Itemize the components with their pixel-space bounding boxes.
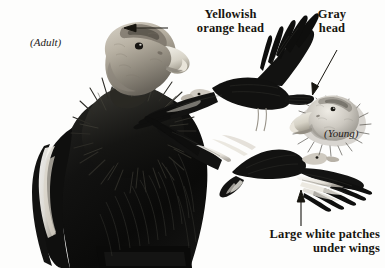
callout-line-2: orange head	[163, 22, 298, 36]
callout-large-white-patches-under-wings: Large white patches under wings	[243, 228, 380, 255]
callout-line-1: Large white patches	[243, 228, 380, 242]
condor-identification-plate: Yellowish orange head Gray head Large wh…	[0, 0, 385, 268]
arrow-gray-head	[312, 50, 337, 95]
callout-gray-head: Gray head	[303, 8, 361, 35]
callout-line-1: Gray	[303, 8, 361, 22]
age-label-adult: (Adult)	[30, 36, 61, 48]
callout-line-2: head	[303, 22, 361, 36]
callout-yellowish-orange-head: Yellowish orange head	[163, 8, 298, 35]
callout-line-2: under wings	[243, 242, 380, 256]
callout-line-1: Yellowish	[163, 8, 298, 22]
age-label-young: (Young)	[324, 127, 358, 139]
